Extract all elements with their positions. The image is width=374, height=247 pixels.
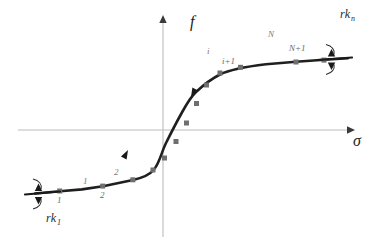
curve-node [238,65,243,70]
segment-label-N: N [268,30,274,39]
curve-node [100,184,105,189]
curve-node [130,177,135,182]
left-stiffness-text: rk [46,211,56,225]
stress-strain-backbone-figure: f σ 1 1 2 2 i i+1 N N+1 rk1 rkn [0,0,374,247]
figure-canvas [0,0,374,247]
curve-node [174,139,179,144]
curve-node [151,168,156,173]
right-stiffness-subscript: n [351,14,355,23]
curve-node [204,83,209,88]
segment-label-2: 2 [114,168,119,177]
left-stiffness-annotation [25,179,60,209]
curve-node [184,121,189,126]
curve-direction-arrow-icon [121,148,131,159]
node-label-i-plus-1: i+1 [222,57,235,66]
curve-node [194,101,199,106]
right-stiffness-text: rk [340,7,350,21]
left-tangent-bar [25,192,60,195]
x-axis-label: σ [353,133,361,149]
x-axis [18,126,355,134]
right-stiffness-label: rkn [340,8,354,20]
node-label-2: 2 [100,191,105,200]
curve-node-markers [57,58,326,194]
node-label-1: 1 [57,196,62,205]
curve-node [294,60,299,65]
segment-label-i: i [207,47,210,56]
curve-node [218,71,223,76]
y-axis [159,15,166,237]
backbone-curve-path [35,58,348,193]
curve-node [162,156,167,161]
backbone-curve [35,58,348,193]
y-axis-arrowhead-icon [159,15,166,23]
segment-label-1: 1 [83,177,88,186]
node-label-N-plus-1: N+1 [289,44,306,53]
y-axis-label: f [190,14,194,30]
left-stiffness-subscript: 1 [57,218,61,227]
left-stiffness-label: rk1 [46,212,60,224]
